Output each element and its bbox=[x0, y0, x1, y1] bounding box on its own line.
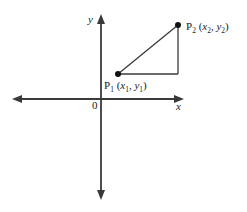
point-p1-marker bbox=[115, 71, 121, 77]
segment-hypotenuse bbox=[118, 25, 178, 74]
point-p1-label: P1 (x1, y1) bbox=[104, 80, 147, 91]
p2-subscript: 2 bbox=[192, 26, 196, 35]
y-axis-bottom-arrowhead bbox=[97, 190, 105, 200]
y-axis-top-arrowhead bbox=[97, 14, 105, 24]
coordinate-plane-figure: y x 0 P1 (x1, y1) P2 (x2, y2) bbox=[0, 0, 247, 212]
x-axis-left-arrowhead bbox=[12, 95, 22, 103]
x-axis-label: x bbox=[176, 101, 181, 112]
point-p2-marker bbox=[175, 22, 181, 28]
p1-subscript: 1 bbox=[110, 85, 114, 94]
y-axis-label: y bbox=[88, 14, 93, 25]
point-p2-label: P2 (x2, y2) bbox=[186, 21, 229, 32]
origin-label: 0 bbox=[92, 100, 98, 111]
p1-close-paren: ) bbox=[143, 79, 147, 91]
p2-close-paren: ) bbox=[225, 20, 229, 32]
